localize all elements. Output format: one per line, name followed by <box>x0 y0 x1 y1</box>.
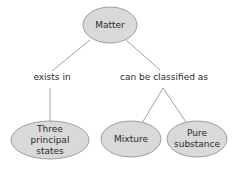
node-pure-substance: Pure substance <box>167 121 227 157</box>
node-states-label: Three principal states <box>18 124 82 157</box>
edge-matter-classified <box>126 40 160 70</box>
node-mixture-label: Mixture <box>114 134 148 145</box>
link-classified-as: can be classified as <box>118 72 210 83</box>
node-matter-label: Matter <box>95 20 125 31</box>
node-matter: Matter <box>83 7 137 43</box>
link-exists-in: exists in <box>22 72 82 83</box>
edge-classified-pure <box>163 88 186 122</box>
node-mixture: Mixture <box>101 121 161 157</box>
edge-classified-mixture <box>142 88 163 123</box>
node-three-principal-states: Three principal states <box>14 124 86 156</box>
node-pure-label: Pure substance <box>172 128 222 150</box>
edge-matter-exists <box>52 40 90 71</box>
